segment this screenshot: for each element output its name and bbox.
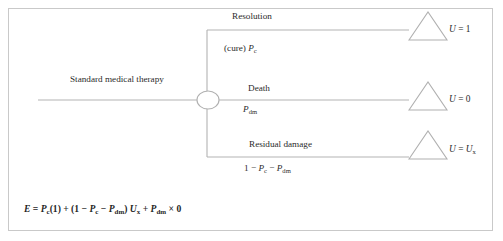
utility-label-resolution: U = 1 (449, 24, 470, 34)
branch-label-death: Death (248, 83, 270, 93)
terminal-node-death (409, 82, 447, 110)
root-branch-label: Standard medical therapy (70, 74, 164, 84)
branch-probability-death: Pdm (243, 104, 257, 114)
branch-label-residual-damage: Residual damage (249, 139, 312, 149)
terminal-node-resolution (409, 12, 447, 40)
decision-tree-figure: Standard medical therapy Resolution (cur… (0, 0, 503, 241)
branch-probability-residual-damage: 1 − Pc − Pdm (244, 163, 291, 173)
branch-label-resolution: Resolution (232, 11, 272, 21)
terminal-node-residual-damage (409, 131, 447, 159)
utility-label-death: U = 0 (449, 94, 470, 104)
chance-node-circle (197, 91, 219, 109)
branch-probability-resolution: (cure) Pc (224, 43, 257, 53)
expected-value-formula: E = Pc(1) + (1 − Pc − Pdm) Ux + Pdm × 0 (24, 203, 181, 214)
utility-label-residual-damage: U = Ux (449, 144, 476, 154)
